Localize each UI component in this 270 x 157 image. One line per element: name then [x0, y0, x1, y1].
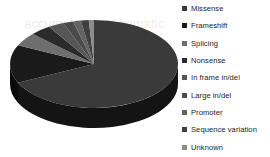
legend-item[interactable]: In frame in/del: [181, 69, 270, 86]
legend-item[interactable]: Nonsense: [181, 52, 270, 69]
legend-item-label: Large in/del: [191, 91, 231, 100]
legend-swatch-icon: [182, 6, 187, 11]
legend-item-label: In frame in/del: [191, 73, 240, 82]
chart-legend: MissenseFrameshiftSplicingNonsenseIn fra…: [181, 0, 270, 157]
legend-item[interactable]: Splicing: [181, 35, 270, 52]
legend-swatch-icon: [182, 23, 187, 28]
legend-swatch-icon: [182, 58, 187, 63]
legend-item-label: Promoter: [191, 108, 223, 117]
legend-swatch-icon: [182, 110, 187, 115]
legend-item-label: Frameshift: [191, 21, 227, 30]
pie-chart-svg: [0, 12, 180, 142]
legend-swatch-icon: [182, 75, 187, 80]
legend-swatch-icon: [182, 145, 187, 150]
legend-swatch-icon: [182, 93, 187, 98]
legend-item[interactable]: Sequence variation: [181, 121, 270, 138]
pie-chart-figure: accumulation of somatic mutations in the…: [0, 0, 270, 157]
legend-item-label: Sequence variation: [191, 125, 257, 134]
legend-item[interactable]: Frameshift: [181, 17, 270, 34]
pie-chart-plot-area: [0, 12, 180, 142]
pie-3d-top-slices: [10, 20, 178, 108]
legend-item[interactable]: Unknown: [181, 138, 270, 155]
legend-item-label: Missense: [191, 4, 223, 13]
legend-swatch-icon: [182, 41, 187, 46]
legend-item-label: Splicing: [191, 39, 218, 48]
legend-swatch-icon: [182, 127, 187, 132]
legend-item[interactable]: Missense: [181, 0, 270, 17]
legend-item-label: Unknown: [191, 143, 223, 152]
legend-item-label: Nonsense: [191, 56, 226, 65]
legend-item[interactable]: Promoter: [181, 104, 270, 121]
legend-item[interactable]: Large in/del: [181, 86, 270, 103]
